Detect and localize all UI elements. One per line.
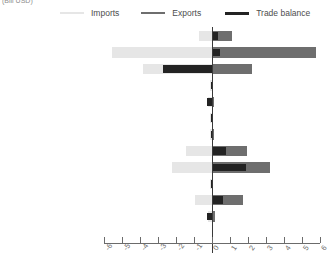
x-tick xyxy=(320,237,321,243)
legend-item-exports: Exports xyxy=(141,8,201,18)
legend-swatch-exports xyxy=(141,12,165,14)
bar-imports xyxy=(112,47,212,58)
bar-imports xyxy=(195,195,212,206)
x-tick-label: 2 xyxy=(247,244,257,253)
unit-caption: (Bill USD) xyxy=(2,0,33,4)
x-tick xyxy=(284,237,285,243)
bar-imports xyxy=(186,146,212,157)
legend-swatch-trade-balance xyxy=(225,12,249,15)
zero-axis-line xyxy=(212,27,213,253)
bar-imports xyxy=(199,31,213,42)
bar-trade-balance xyxy=(212,196,223,204)
bar-trade-balance xyxy=(163,65,213,73)
bar-trade-balance xyxy=(212,164,246,172)
legend-item-trade-balance: Trade balance xyxy=(225,8,310,18)
x-tick xyxy=(248,237,249,243)
bar-exports xyxy=(212,64,252,75)
x-tick-label: 4 xyxy=(283,244,293,253)
bar-trade-balance xyxy=(212,147,226,155)
legend-label-exports: Exports xyxy=(172,8,201,18)
x-tick xyxy=(230,237,231,243)
legend-item-imports: Imports xyxy=(60,8,119,18)
legend-swatch-imports xyxy=(60,12,84,14)
x-tick xyxy=(302,237,303,243)
x-tick xyxy=(212,237,213,243)
x-tick-label: 5 xyxy=(301,244,311,253)
x-tick-label: 1 xyxy=(229,244,239,253)
x-tick-label: 6 xyxy=(319,244,329,253)
x-tick xyxy=(266,237,267,243)
bar-exports xyxy=(212,47,316,58)
legend-label-imports: Imports xyxy=(91,8,119,18)
chart-legend: Imports Exports Trade balance xyxy=(60,6,322,20)
plot-area: -6-5-4-3-2-10123456 xyxy=(104,27,320,240)
x-tick-label: 3 xyxy=(265,244,275,253)
bar-trade-balance xyxy=(212,49,220,57)
bar-imports xyxy=(172,162,212,173)
legend-label-trade-balance: Trade balance xyxy=(256,8,310,18)
